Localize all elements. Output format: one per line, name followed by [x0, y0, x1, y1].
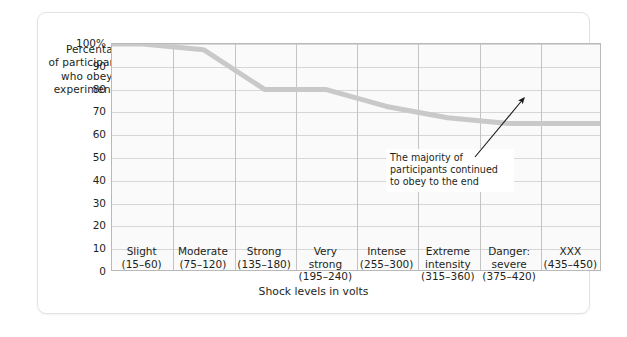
- x-axis-title: Shock levels in volts: [38, 285, 589, 298]
- y-axis-tick-label: 50: [93, 151, 106, 163]
- x-tick-name: Extreme: [417, 245, 478, 258]
- x-axis-tick-label: Extremeintensity(315–360): [417, 245, 478, 283]
- chart-card: Percentage of participants who obeyed ex…: [37, 12, 590, 314]
- x-tick-range: (255–300): [356, 258, 417, 271]
- x-axis-tick-label: Intense(255–300): [356, 245, 417, 270]
- x-tick-name: Danger:: [479, 245, 540, 258]
- y-axis-tick-label: 60: [93, 128, 106, 140]
- y-axis-tick-label: 10: [93, 242, 106, 254]
- x-axis-tick-label: Danger:severe(375–420): [479, 245, 540, 283]
- x-tick-range: (195–240): [295, 270, 356, 283]
- x-axis-tick-label: Slight(15–60): [111, 245, 172, 270]
- x-tick-name: Very: [295, 245, 356, 258]
- x-tick-name: strong: [295, 258, 356, 271]
- x-axis-tick-label: XXX(435–450): [540, 245, 601, 270]
- x-tick-range: (315–360): [417, 270, 478, 283]
- x-axis-tick-label: Moderate(75–120): [172, 245, 233, 270]
- annotation-line-3: to obey to the end: [390, 176, 510, 188]
- x-tick-name: XXX: [540, 245, 601, 258]
- y-axis-tick-label: 70: [93, 105, 106, 117]
- x-tick-range: (135–180): [234, 258, 295, 271]
- y-axis-tick-label: 90: [93, 60, 106, 72]
- annotation-arrow-icon: [458, 85, 538, 167]
- x-axis-tick-label: Verystrong(195–240): [295, 245, 356, 283]
- y-axis-tick-label: 40: [93, 174, 106, 186]
- y-axis-tick-label: 0: [99, 265, 106, 277]
- x-tick-name: severe: [479, 258, 540, 271]
- x-tick-range: (435–450): [540, 258, 601, 271]
- x-tick-name: Slight: [111, 245, 172, 258]
- x-tick-name: Moderate: [172, 245, 233, 258]
- y-axis-tick-label: 20: [93, 219, 106, 231]
- x-tick-range: (375–420): [479, 270, 540, 283]
- y-axis-tick-label: 30: [93, 197, 106, 209]
- x-axis-tick-label: Strong(135–180): [234, 245, 295, 270]
- x-tick-range: (15–60): [111, 258, 172, 271]
- x-tick-range: (75–120): [172, 258, 233, 271]
- x-tick-name: intensity: [417, 258, 478, 271]
- y-axis-tick-label: 80: [93, 83, 106, 95]
- x-tick-name: Intense: [356, 245, 417, 258]
- x-tick-name: Strong: [234, 245, 295, 258]
- y-axis-tick-label: 100%: [76, 37, 106, 49]
